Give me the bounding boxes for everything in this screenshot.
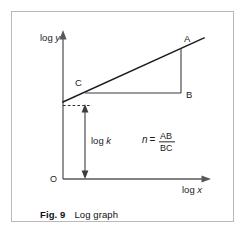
plot-line: [63, 38, 204, 102]
y-axis-label: logy: [40, 32, 61, 43]
log-graph-diagram: logy logx O A B C logk n = AB BC: [12, 12, 235, 223]
figure-frame: logy logx O A B C logk n = AB BC Fig. 9L…: [11, 11, 234, 222]
x-axis-label: logx: [182, 184, 203, 195]
x-axis-arrowhead: [202, 175, 212, 182]
log-k-arrowhead-down: [82, 171, 89, 180]
formula-denominator: BC: [160, 143, 173, 153]
log-k-measure-arrow: [82, 104, 89, 179]
gradient-formula: n = AB BC: [142, 131, 175, 153]
figure-caption-label: Fig. 9: [40, 209, 65, 220]
figure-caption-title: Log graph: [74, 209, 118, 220]
point-label-b: B: [186, 89, 192, 100]
y-axis: [59, 30, 66, 179]
y-axis-arrowhead: [59, 30, 66, 40]
origin-label: O: [50, 174, 57, 184]
figure-caption: Fig. 9Log graph: [40, 209, 118, 220]
formula-numerator: AB: [160, 131, 172, 141]
log-k-label: logk: [91, 135, 112, 146]
formula-equals: =: [150, 134, 156, 145]
formula-lhs: n: [142, 134, 148, 145]
point-label-a: A: [184, 33, 191, 44]
point-label-c: C: [75, 77, 82, 88]
